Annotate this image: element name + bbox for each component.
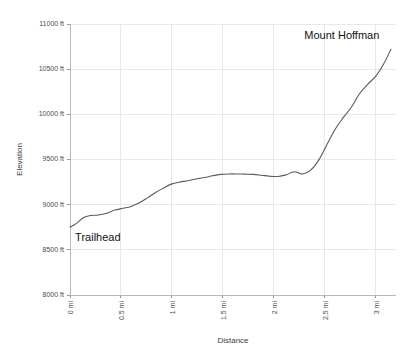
y-tick-label: 8500 ft: [43, 246, 64, 253]
x-tick-label: 0.5 mi: [118, 301, 125, 321]
gridlines-horizontal: [70, 24, 396, 295]
annotation-label: Trailhead: [75, 231, 120, 243]
elevation-profile-chart: 8000 ft8500 ft9000 ft9500 ft10000 ft1050…: [0, 0, 410, 350]
annotation-label: Mount Hoffman: [304, 29, 379, 41]
axis-lines: [67, 24, 396, 298]
x-tick-label: 3 mi: [373, 301, 380, 315]
y-tick-label: 10500 ft: [39, 65, 64, 72]
x-tick-label: 2.5 mi: [322, 301, 329, 321]
y-tick-label: 9000 ft: [43, 201, 64, 208]
x-tick-label: 1.5 mi: [220, 301, 227, 321]
x-axis-title: Distance: [217, 336, 249, 345]
y-axis-title: Elevation: [15, 143, 24, 176]
x-tick-label: 1 mi: [169, 301, 176, 315]
x-tick-label: 2 mi: [271, 301, 278, 315]
x-axis-tick-labels: 0 mi0.5 mi1 mi1.5 mi2 mi2.5 mi3 mi: [67, 301, 380, 321]
y-axis-tick-labels: 8000 ft8500 ft9000 ft9500 ft10000 ft1050…: [39, 20, 64, 298]
y-tick-label: 8000 ft: [43, 291, 64, 298]
y-tick-label: 10000 ft: [39, 110, 64, 117]
elevation-line-path: [70, 49, 391, 227]
y-tick-label: 9500 ft: [43, 155, 64, 162]
y-tick-label: 11000 ft: [39, 20, 64, 27]
chart-canvas: 8000 ft8500 ft9000 ft9500 ft10000 ft1050…: [0, 0, 410, 350]
elevation-series-line: [70, 49, 391, 227]
x-tick-label: 0 mi: [67, 301, 74, 315]
